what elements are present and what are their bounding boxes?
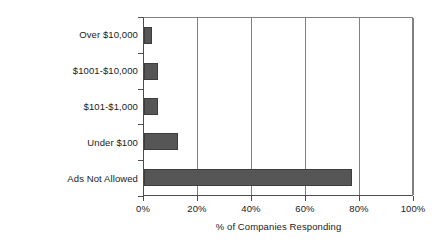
x-axis-tick — [359, 196, 360, 201]
x-axis-tick-label: 0% — [123, 203, 163, 214]
x-axis-tick-label: 40% — [231, 203, 271, 214]
x-axis-tick — [251, 196, 252, 201]
bar-chart: $ Amount Received from Site Advertising … — [0, 0, 436, 249]
category-label: $1001-$10,000 — [46, 53, 141, 89]
x-axis-tick-label: 80% — [339, 203, 379, 214]
x-axis-tick-label: 20% — [177, 203, 217, 214]
x-axis-tick — [305, 196, 306, 201]
x-axis-tick — [197, 196, 198, 201]
bar-over-10000 — [144, 27, 152, 44]
bar-slot — [144, 89, 412, 124]
x-axis-ticks — [143, 196, 414, 201]
bars-layer — [144, 18, 412, 195]
x-axis-tick — [413, 196, 414, 201]
category-label: Under $100 — [46, 124, 141, 160]
bar-under-100 — [144, 133, 178, 150]
bar-slot — [144, 18, 412, 53]
category-label: Over $10,000 — [46, 17, 141, 53]
category-label: Ads Not Allowed — [46, 160, 141, 196]
y-axis-category-labels: Over $10,000 $1001-$10,000 $101-$1,000 U… — [46, 17, 141, 196]
bar-1001-10000 — [144, 63, 158, 80]
gridline — [413, 18, 414, 195]
x-axis-tick — [143, 196, 144, 201]
plot-area — [143, 17, 413, 196]
x-axis-tick-label: 100% — [393, 203, 433, 214]
category-label: $101-$1,000 — [46, 89, 141, 125]
bar-slot — [144, 53, 412, 88]
bar-slot — [144, 124, 412, 159]
bar-101-1000 — [144, 98, 158, 115]
x-axis-tick-label: 60% — [285, 203, 325, 214]
x-axis-title: % of Companies Responding — [143, 221, 414, 232]
bar-ads-not-allowed — [144, 169, 352, 186]
x-axis-tick-labels: 0%20%40%60%80%100% — [123, 203, 434, 217]
bar-slot — [144, 160, 412, 195]
